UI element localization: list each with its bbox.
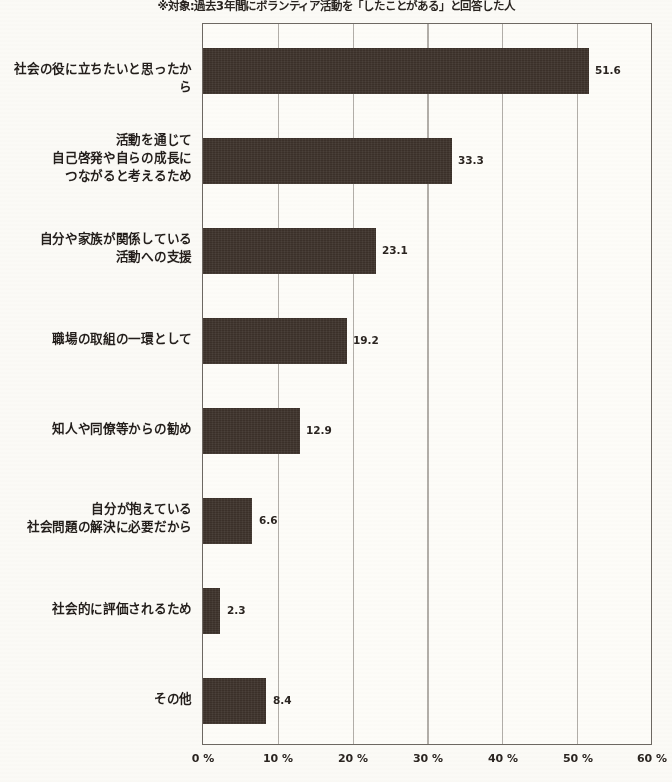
xtick-20: 20 % — [338, 752, 368, 765]
bar-2 — [203, 228, 376, 274]
category-label-7: その他 — [10, 690, 192, 708]
bar-0 — [203, 48, 589, 94]
bar-value-5: 6.6 — [259, 514, 278, 526]
bar-5 — [203, 498, 252, 544]
bar-value-7: 8.4 — [273, 694, 292, 706]
xtick-50: 50 % — [563, 752, 593, 765]
xtick-60: 60 % — [637, 752, 667, 765]
bar-value-6: 2.3 — [227, 604, 246, 616]
gridline-40 — [502, 24, 503, 744]
bar-7 — [203, 678, 266, 724]
plot-area: 51.6 33.3 23.1 19.2 12.9 6.6 2.3 8.4 — [202, 23, 652, 745]
category-label-2: 自分や家族が関係している 活動への支援 — [10, 230, 192, 266]
xtick-30: 30 % — [413, 752, 443, 765]
bar-6 — [203, 588, 220, 634]
gridline-20 — [353, 24, 354, 744]
gridline-50 — [577, 24, 578, 744]
category-label-5: 自分が抱えている 社会問題の解決に必要だから — [10, 500, 192, 536]
bar-1 — [203, 138, 452, 184]
category-label-0: 社会の役に立ちたいと思ったから — [10, 60, 192, 96]
bar-value-3: 19.2 — [353, 334, 379, 346]
category-label-4: 知人や同僚等からの勧め — [10, 420, 192, 438]
bar-4 — [203, 408, 300, 454]
xtick-10: 10 % — [263, 752, 293, 765]
bar-3 — [203, 318, 347, 364]
gridline-30 — [427, 24, 428, 744]
bar-value-0: 51.6 — [595, 64, 621, 76]
bar-chart: 51.6 33.3 23.1 19.2 12.9 6.6 2.3 8.4 社会の… — [0, 0, 672, 782]
bar-value-4: 12.9 — [306, 424, 332, 436]
gridline-10 — [278, 24, 279, 744]
category-label-6: 社会的に評価されるため — [10, 600, 192, 618]
bar-value-1: 33.3 — [458, 154, 484, 166]
category-label-1: 活動を通じて 自己啓発や自らの成長に つながると考えるため — [10, 131, 192, 185]
xtick-0: 0 % — [192, 752, 215, 765]
xtick-40: 40 % — [488, 752, 518, 765]
category-label-3: 職場の取組の一環として — [10, 330, 192, 348]
bar-value-2: 23.1 — [382, 244, 408, 256]
